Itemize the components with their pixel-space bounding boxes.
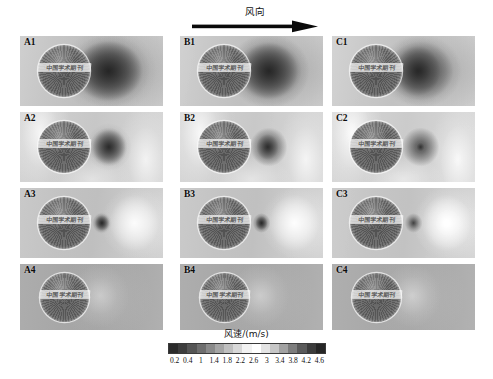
watermark-c4: 中国学术期刊 (351, 290, 402, 299)
colorbar-tick-2.6: 2.6 (249, 356, 258, 366)
colorbar-swatch-13 (288, 344, 297, 353)
watermark-c1: 中国学术期刊 (349, 63, 403, 72)
panel-label-c3: C3 (336, 189, 348, 200)
watermark-b2: 中国学术期刊 (197, 139, 251, 148)
colorbar-swatch-14 (297, 344, 306, 353)
colorbar-swatch-11 (270, 344, 279, 353)
panel-c2: 中国学术期刊C2 (332, 112, 475, 182)
panel-a1: 中国学术期刊A1 (20, 36, 163, 106)
colorbar-tick-3.4: 3.4 (275, 356, 284, 366)
panel-a4: 中国学术期刊A4 (20, 264, 163, 330)
watermark-a2: 中国学术期刊 (37, 139, 91, 148)
panel-label-c1: C1 (336, 37, 348, 48)
wind-direction-label: 风向 (190, 6, 320, 17)
colorbar-tick-0.2: 0.2 (170, 356, 179, 366)
panel-b4: 中国学术期刊B4 (180, 264, 323, 330)
wind-direction-header: 风向 (190, 6, 320, 34)
panel-label-a4: A4 (24, 265, 36, 276)
wind-speed-figure: 风向 中国学术期刊A1中国学术期刊B1中国学术期刊C1中国学术期刊A2中国学术期… (0, 0, 493, 379)
watermark-b1: 中国学术期刊 (197, 63, 251, 72)
panel-b2: 中国学术期刊B2 (180, 112, 323, 182)
colorbar-swatch-3 (197, 344, 206, 353)
colorbar-tick-0.4: 0.4 (183, 356, 192, 366)
colorbar-swatch-7 (233, 344, 242, 353)
colorbar-tick-2.2: 2.2 (236, 356, 245, 366)
colorbar-swatch-6 (224, 344, 233, 353)
colorbar-tick-1.4: 1.4 (209, 356, 218, 366)
watermark-a3: 中国学术期刊 (37, 215, 91, 224)
panel-c1: 中国学术期刊C1 (332, 36, 475, 106)
colorbar-swatch-12 (279, 344, 288, 353)
panel-label-b2: B2 (184, 113, 195, 124)
watermark-a4: 中国学术期刊 (39, 290, 90, 299)
colorbar-swatch-16 (316, 344, 325, 353)
watermark-c3: 中国学术期刊 (349, 215, 403, 224)
colorbar-swatch-5 (215, 344, 224, 353)
colorbar-tick-1.8: 1.8 (223, 356, 232, 366)
right-arrow-icon (192, 20, 318, 33)
colorbar-swatch-1 (178, 344, 187, 353)
panel-label-a2: A2 (24, 113, 36, 124)
colorbar-swatch-0 (169, 344, 178, 353)
panel-label-b3: B3 (184, 189, 195, 200)
panel-label-a1: A1 (24, 37, 36, 48)
panel-a2: 中国学术期刊A2 (20, 112, 163, 182)
panel-label-b1: B1 (184, 37, 195, 48)
watermark-c2: 中国学术期刊 (349, 139, 403, 148)
colorbar-tick-labels: 0.20.411.41.82.22.633.43.84.24.6 (150, 356, 350, 368)
colorbar-title: 风速/(m/s) (0, 328, 493, 340)
panel-b3: 中国学术期刊B3 (180, 188, 323, 258)
panel-b1: 中国学术期刊B1 (180, 36, 323, 106)
colorbar-tick-4.6: 4.6 (315, 356, 324, 366)
watermark-b4: 中国学术期刊 (199, 290, 250, 299)
panel-label-c2: C2 (336, 113, 348, 124)
colorbar-tick-1: 1 (199, 356, 203, 366)
colorbar-swatch-4 (206, 344, 215, 353)
watermark-b3: 中国学术期刊 (197, 215, 251, 224)
colorbar-tick-3: 3 (265, 356, 269, 366)
colorbar-swatch-10 (261, 344, 270, 353)
colorbar-swatch-9 (252, 344, 261, 353)
colorbar-gradient (168, 343, 326, 354)
colorbar-swatch-15 (307, 344, 316, 353)
panel-label-a3: A3 (24, 189, 36, 200)
colorbar-tick-4.2: 4.2 (302, 356, 311, 366)
colorbar-block: 风速/(m/s) 0.20.411.41.82.22.633.43.84.24.… (0, 328, 493, 376)
panel-label-c4: C4 (336, 265, 348, 276)
panel-a3: 中国学术期刊A3 (20, 188, 163, 258)
panel-label-b4: B4 (184, 265, 195, 276)
colorbar-swatch-2 (187, 344, 196, 353)
panel-c3: 中国学术期刊C3 (332, 188, 475, 258)
colorbar-swatch-8 (242, 344, 251, 353)
watermark-a1: 中国学术期刊 (37, 63, 91, 72)
colorbar-tick-3.8: 3.8 (288, 356, 297, 366)
panel-c4: 中国学术期刊C4 (332, 264, 475, 330)
